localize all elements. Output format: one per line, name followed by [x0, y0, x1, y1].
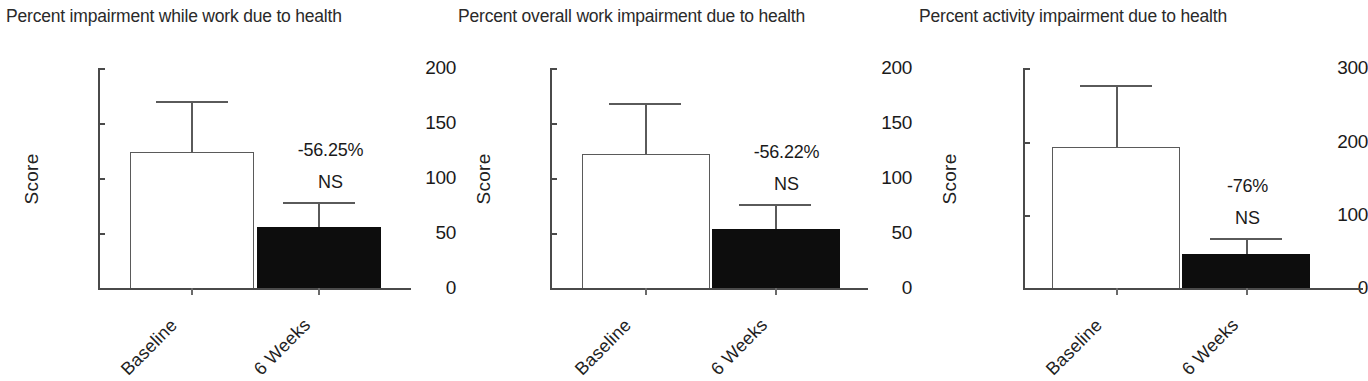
panel-2-annotation-percent: -56.22% — [714, 142, 859, 163]
panel-3-bar-baseline — [1052, 147, 1180, 288]
chart-panel-2: Percent overall work impairment due to h… — [456, 0, 912, 381]
panel-2-bar-baseline — [582, 154, 710, 288]
panel-1-x-axis-line — [98, 288, 411, 290]
panel-2-ytick-mark-150 — [550, 123, 557, 125]
panel-1-errorbar-cap-baseline — [156, 101, 228, 103]
panel-2-ytick-mark-100 — [550, 178, 557, 180]
panel-2-xtick-label-6weeks: 6 Weeks — [707, 315, 772, 380]
panel-1-ytick-label-200: 200 — [364, 58, 456, 77]
panel-1-y-axis-label: Score — [21, 139, 43, 219]
panel-1-errorbar-stem-6weeks — [318, 202, 320, 227]
panel-2-xtick-label-baseline: Baseline — [571, 315, 636, 380]
panel-1-xtick-label-6weeks: 6 Weeks — [250, 315, 315, 380]
panel-2-ytick-mark-50 — [550, 233, 557, 235]
panel-3-xtick-mark-baseline — [1116, 288, 1118, 295]
panel-1-plot-area: Score 200 150 100 50 0 — [0, 0, 456, 381]
panel-1-ytick-label-150: 150 — [364, 113, 456, 132]
chart-panel-3: Percent activity impairment due to healt… — [912, 0, 1368, 381]
panel-2-plot-area: Score 200 150 100 50 0 -56.22% NS Bas — [456, 0, 912, 381]
panel-1-bar-baseline — [130, 152, 254, 288]
panel-3-xtick-mark-6weeks — [1246, 288, 1248, 295]
chart-panel-1: Percent impairment while work due to hea… — [0, 0, 456, 381]
panel-3-ytick-mark-300 — [1023, 68, 1030, 70]
panel-1-annotation-percent: -56.25% — [258, 140, 403, 161]
panel-1-xtick-mark-baseline — [191, 288, 193, 295]
panel-3-annotation-significance: NS — [1184, 208, 1311, 229]
panel-3-y-axis-label: Score — [939, 139, 961, 219]
panel-1-annotation-significance: NS — [258, 172, 403, 193]
panel-1-ytick-mark-100 — [98, 178, 105, 180]
panel-2-annotation-significance: NS — [714, 174, 859, 195]
panel-3-ytick-mark-100 — [1023, 215, 1030, 217]
panel-3-errorbar-stem-6weeks — [1246, 238, 1248, 254]
panel-3-y-axis-line — [1023, 68, 1025, 290]
panel-2-ytick-mark-200 — [550, 68, 557, 70]
panel-2-errorbar-stem-baseline — [645, 103, 647, 154]
panel-2-xtick-mark-baseline — [645, 288, 647, 295]
panel-3-ytick-label-300: 300 — [1263, 58, 1368, 77]
panel-1-xtick-label-baseline: Baseline — [117, 315, 182, 380]
panel-3-annotation-percent: -76% — [1184, 176, 1311, 197]
panel-3-plot-area: Score 300 200 100 0 -76% NS Baseline — [912, 0, 1368, 381]
panel-3-bar-6weeks — [1182, 254, 1310, 288]
panel-3-ytick-mark-200 — [1023, 142, 1030, 144]
panel-2-ytick-label-200: 200 — [824, 58, 912, 77]
panel-3-errorbar-cap-baseline — [1080, 85, 1152, 87]
panel-2-bar-6weeks — [712, 229, 840, 288]
panel-3-xtick-label-6weeks: 6 Weeks — [1178, 315, 1243, 380]
panel-2-errorbar-cap-baseline — [609, 103, 681, 105]
panel-1-ytick-mark-50 — [98, 233, 105, 235]
panel-3-x-axis-line — [1023, 288, 1363, 290]
panel-2-y-axis-label: Score — [473, 139, 495, 219]
panel-3-errorbar-cap-6weeks — [1210, 238, 1282, 240]
panel-1-bar-6weeks — [257, 227, 381, 288]
panel-1-ytick-mark-150 — [98, 123, 105, 125]
panel-2-x-axis-line — [550, 288, 868, 290]
panel-3-ytick-label-200: 200 — [1263, 132, 1368, 151]
panel-3-xtick-label-baseline: Baseline — [1042, 315, 1107, 380]
panel-1-errorbar-cap-6weeks — [283, 202, 355, 204]
panel-1-errorbar-stem-baseline — [191, 101, 193, 152]
panel-1-ytick-mark-200 — [98, 68, 105, 70]
panel-2-ytick-label-150: 150 — [824, 113, 912, 132]
panel-2-errorbar-stem-6weeks — [775, 204, 777, 229]
panel-2-errorbar-cap-6weeks — [739, 204, 811, 206]
panel-3-errorbar-stem-baseline — [1116, 85, 1118, 147]
panel-2-xtick-mark-6weeks — [775, 288, 777, 295]
figure-bar-chart-panels: Percent impairment while work due to hea… — [0, 0, 1368, 381]
panel-1-xtick-mark-6weeks — [318, 288, 320, 295]
